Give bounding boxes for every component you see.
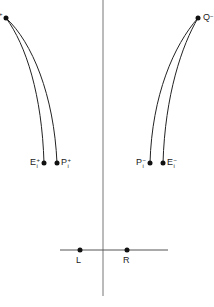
- label-p-i-minus-sub: i: [143, 163, 147, 169]
- label-e-i-minus-sub: i: [174, 163, 178, 169]
- label-e-i-plus: E+i: [30, 157, 40, 169]
- observer-l-dot: [78, 248, 83, 253]
- label-p-i-plus-base: P: [61, 157, 67, 167]
- label-q-plus-sup: +: [0, 11, 3, 17]
- source-q-plus-dot: [4, 16, 9, 21]
- label-e-i-minus-base: E: [167, 157, 173, 167]
- endpoint-e-i-plus-dot: [42, 161, 47, 166]
- label-e-i-plus-sub: i: [37, 163, 41, 169]
- curve-q-plus-to-e-i-plus: [6, 18, 44, 163]
- endpoint-e-i-minus-dot: [161, 161, 166, 166]
- curve-q-plus-to-p-i-plus: [6, 18, 57, 163]
- label-q-minus-base: Q: [203, 12, 210, 22]
- label-e-i-minus: E−i: [167, 157, 177, 169]
- label-observer-r: R: [123, 256, 130, 265]
- label-q-plus: +: [0, 11, 3, 20]
- label-p-i-plus: P+i: [61, 157, 71, 169]
- label-p-i-minus-base: P: [136, 157, 142, 167]
- diagram-canvas: [0, 0, 214, 307]
- label-q-minus-sup: −: [210, 13, 214, 19]
- label-observer-l: L: [76, 256, 81, 265]
- label-e-i-plus-base: E: [30, 157, 36, 167]
- curve-q-minus-to-p-i-minus: [150, 18, 198, 163]
- label-q-minus: Q−: [203, 13, 214, 22]
- endpoint-p-i-minus-dot: [148, 161, 153, 166]
- label-p-i-minus: P−i: [136, 157, 146, 169]
- source-q-minus-dot: [196, 16, 201, 21]
- label-p-i-plus-sub: i: [68, 163, 72, 169]
- endpoint-p-i-plus-dot: [55, 161, 60, 166]
- curve-q-minus-to-e-i-minus: [163, 18, 198, 163]
- observer-r-dot: [125, 248, 130, 253]
